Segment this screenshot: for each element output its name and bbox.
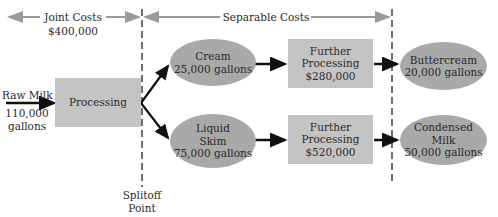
liquid-skim-name-line2: Skim (200, 135, 227, 148)
split-arrow-skim (141, 103, 168, 138)
joint-costs-amount: $400,000 (40, 25, 106, 37)
fp-skim-cost: $520,000 (305, 146, 355, 159)
splitoff-label-line2: Point (117, 202, 167, 214)
fp-cream-line1: Further (310, 45, 351, 58)
fp-skim-line2: Processing (301, 133, 359, 146)
raw-milk-name: Raw Milk (2, 89, 52, 101)
joint-costs-label: Joint Costs (40, 11, 106, 23)
raw-milk-unit: gallons (2, 120, 52, 132)
further-processing-skim-box: Further Processing $520,000 (288, 115, 373, 164)
split-arrow-cream (141, 66, 168, 103)
raw-milk-qty: 110,000 (2, 107, 52, 119)
condensed-milk-name-line1: Condensed (414, 121, 473, 134)
separable-costs-label: Separable Costs (222, 11, 310, 23)
splitoff-label-line1: Splitoff (117, 189, 167, 201)
processing-box: Processing (55, 78, 141, 127)
buttercream-name: Buttercream (410, 54, 477, 67)
condensed-milk-node: Condensed Milk 50,000 gallons (400, 115, 487, 165)
condensed-milk-qty: 50,000 gallons (404, 146, 482, 159)
condensed-milk-name-line2: Milk (432, 134, 456, 147)
liquid-skim-node: Liquid Skim 75,000 gallons (170, 114, 256, 168)
cream-qty: 25,000 gallons (174, 63, 252, 76)
processing-label: Processing (69, 96, 127, 109)
cream-name: Cream (195, 50, 230, 63)
buttercream-qty: 20,000 gallons (404, 66, 482, 79)
cream-node: Cream 25,000 gallons (170, 39, 256, 86)
fp-cream-cost: $280,000 (305, 70, 355, 83)
liquid-skim-qty: 75,000 gallons (174, 147, 252, 160)
further-processing-cream-box: Further Processing $280,000 (288, 39, 373, 88)
liquid-skim-name-line1: Liquid (196, 122, 230, 135)
fp-skim-line1: Further (310, 121, 351, 134)
fp-cream-line2: Processing (301, 57, 359, 70)
buttercream-node: Buttercream 20,000 gallons (400, 42, 487, 90)
